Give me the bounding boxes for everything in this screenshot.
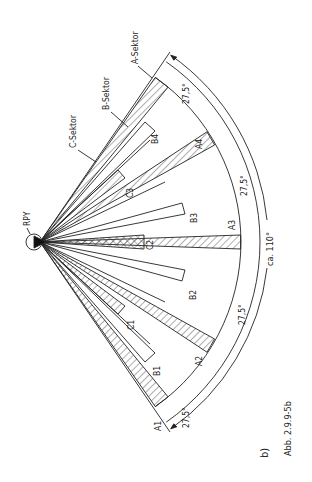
- b-sector-callout: B-Sektor: [101, 76, 111, 110]
- angle-label-1: 27,5°: [181, 83, 191, 104]
- rpy-label: RPY: [22, 211, 32, 226]
- c-sector-callout: C-Sektor: [68, 114, 78, 148]
- angle-label-4: 27,5°: [181, 407, 191, 428]
- angle-label-3: 27,5°: [237, 304, 247, 325]
- angle-label-2: 27,5°: [239, 175, 249, 196]
- label-c2: C2: [145, 240, 155, 250]
- label-c1: C1: [126, 320, 136, 330]
- arrowhead-bottom: [171, 424, 177, 429]
- label-b1: B1: [152, 366, 162, 376]
- total-angle-label: ca. 110°: [265, 232, 275, 266]
- label-b3: B3: [189, 213, 199, 223]
- label-a4: A4: [194, 139, 204, 149]
- label-b4: B4: [150, 134, 160, 144]
- label-a3: A3: [227, 220, 237, 230]
- label-b2: B2: [188, 290, 198, 300]
- label-c3: C3: [125, 188, 135, 198]
- label-a2: A2: [194, 356, 204, 366]
- sector-c2: [40, 235, 144, 249]
- caption-reference: Abb. 2.9.9-5b: [283, 401, 293, 456]
- a-sector-callout: A-Sektor: [130, 31, 140, 64]
- rpy-leader-line: [27, 228, 30, 234]
- total-angle-arc-bottom: [171, 268, 267, 429]
- caption-label: b): [258, 448, 271, 458]
- total-angle-arc-top: [171, 55, 267, 220]
- c-sector-leader: [78, 150, 96, 162]
- label-a1: A1: [153, 421, 163, 431]
- sector-diagram: RPY A-Sektor B-Sektor C-Sektor A4 A3 A2 …: [0, 0, 312, 482]
- arrowhead-top: [171, 55, 177, 60]
- a-sector-leader: [138, 66, 152, 78]
